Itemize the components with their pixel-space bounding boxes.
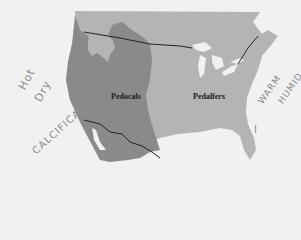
pedocals-label: Pedocals bbox=[111, 92, 141, 101]
pedalfers-label: Pedalfers bbox=[193, 92, 225, 101]
handwritten-mark: I bbox=[254, 124, 258, 135]
